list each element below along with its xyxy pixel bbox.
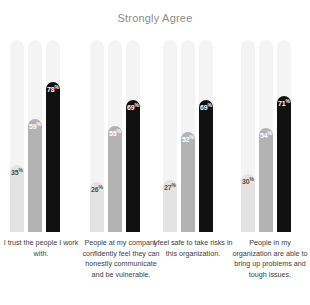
bar[interactable] [126,100,140,232]
bar-slot: 35% [10,40,24,232]
bar-group: 35%59%78% [10,40,72,232]
category-label: I feel safe to take risks in this organi… [153,238,233,259]
bar[interactable] [199,100,213,232]
bar-value-label: 52% [181,135,195,143]
bar-value-label: 27% [163,183,177,191]
bar-group: 26%55%69% [90,40,152,232]
plot-area: 35%59%78%26%55%69%27%52%69%30%54%71% [0,40,310,232]
bar-value-label: 78% [46,85,60,93]
category-labels: I trust the people I work with.People at… [0,238,310,305]
strongly-agree-bar-chart: Strongly Agree 35%59%78%26%55%69%27%52%6… [0,0,310,305]
category-label: People at my company confidently feel th… [80,238,162,280]
bar-value-label: 69% [126,103,140,111]
bar-value-label: 69% [199,103,213,111]
bar-slot: 27% [163,40,177,232]
bar[interactable] [259,128,273,232]
bar[interactable] [277,96,291,232]
bar-slot: 54% [259,40,273,232]
bar-value-label: 59% [28,122,42,130]
bar-value-label: 54% [259,131,273,139]
bar-slot: 69% [199,40,213,232]
bar-value-label: 55% [108,129,122,137]
bar[interactable] [108,126,122,232]
bar-slot: 55% [108,40,122,232]
bar-value-label: 30% [241,177,255,185]
bar-value-label: 26% [90,185,104,193]
bar-slot: 71% [277,40,291,232]
bar-slot: 30% [241,40,255,232]
bar-group: 30%54%71% [241,40,303,232]
bar-slot: 78% [46,40,60,232]
bar[interactable] [28,119,42,232]
chart-title: Strongly Agree [0,12,310,24]
category-label: I trust the people I work with. [2,238,80,259]
bar[interactable] [46,82,60,232]
bar-slot: 69% [126,40,140,232]
bar-value-label: 71% [277,99,291,107]
bar[interactable] [181,132,195,232]
bar-slot: 59% [28,40,42,232]
category-label: People in my organization are able to br… [231,238,309,280]
bar-group: 27%52%69% [163,40,225,232]
bar-value-label: 35% [10,168,24,176]
bar-slot: 52% [181,40,195,232]
bar-slot: 26% [90,40,104,232]
